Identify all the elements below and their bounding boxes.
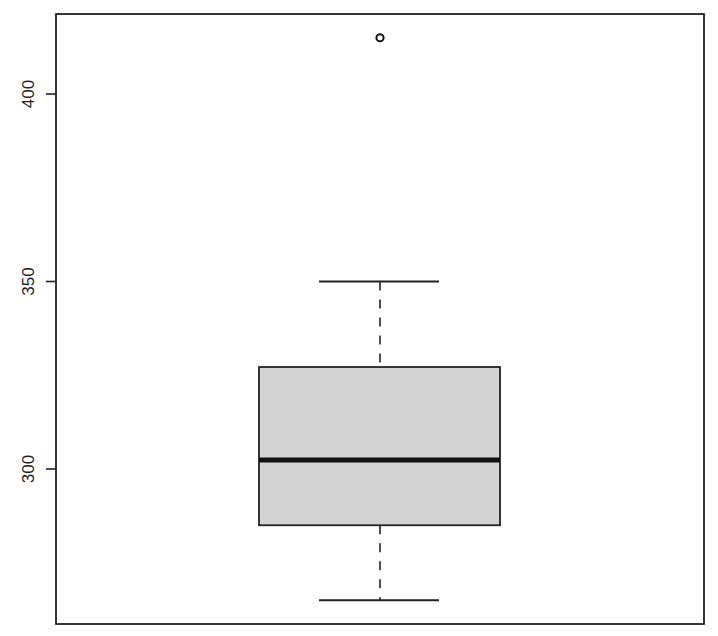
outliers (376, 34, 383, 41)
boxplot-chart: 300350400 (0, 0, 718, 636)
y-tick-label: 350 (19, 267, 38, 295)
y-tick-label: 400 (19, 80, 38, 108)
outlier-point (376, 34, 383, 41)
y-tick-label: 300 (19, 455, 38, 483)
y-axis: 300350400 (19, 80, 56, 483)
iqr-box (259, 367, 500, 525)
box-group (259, 282, 500, 601)
